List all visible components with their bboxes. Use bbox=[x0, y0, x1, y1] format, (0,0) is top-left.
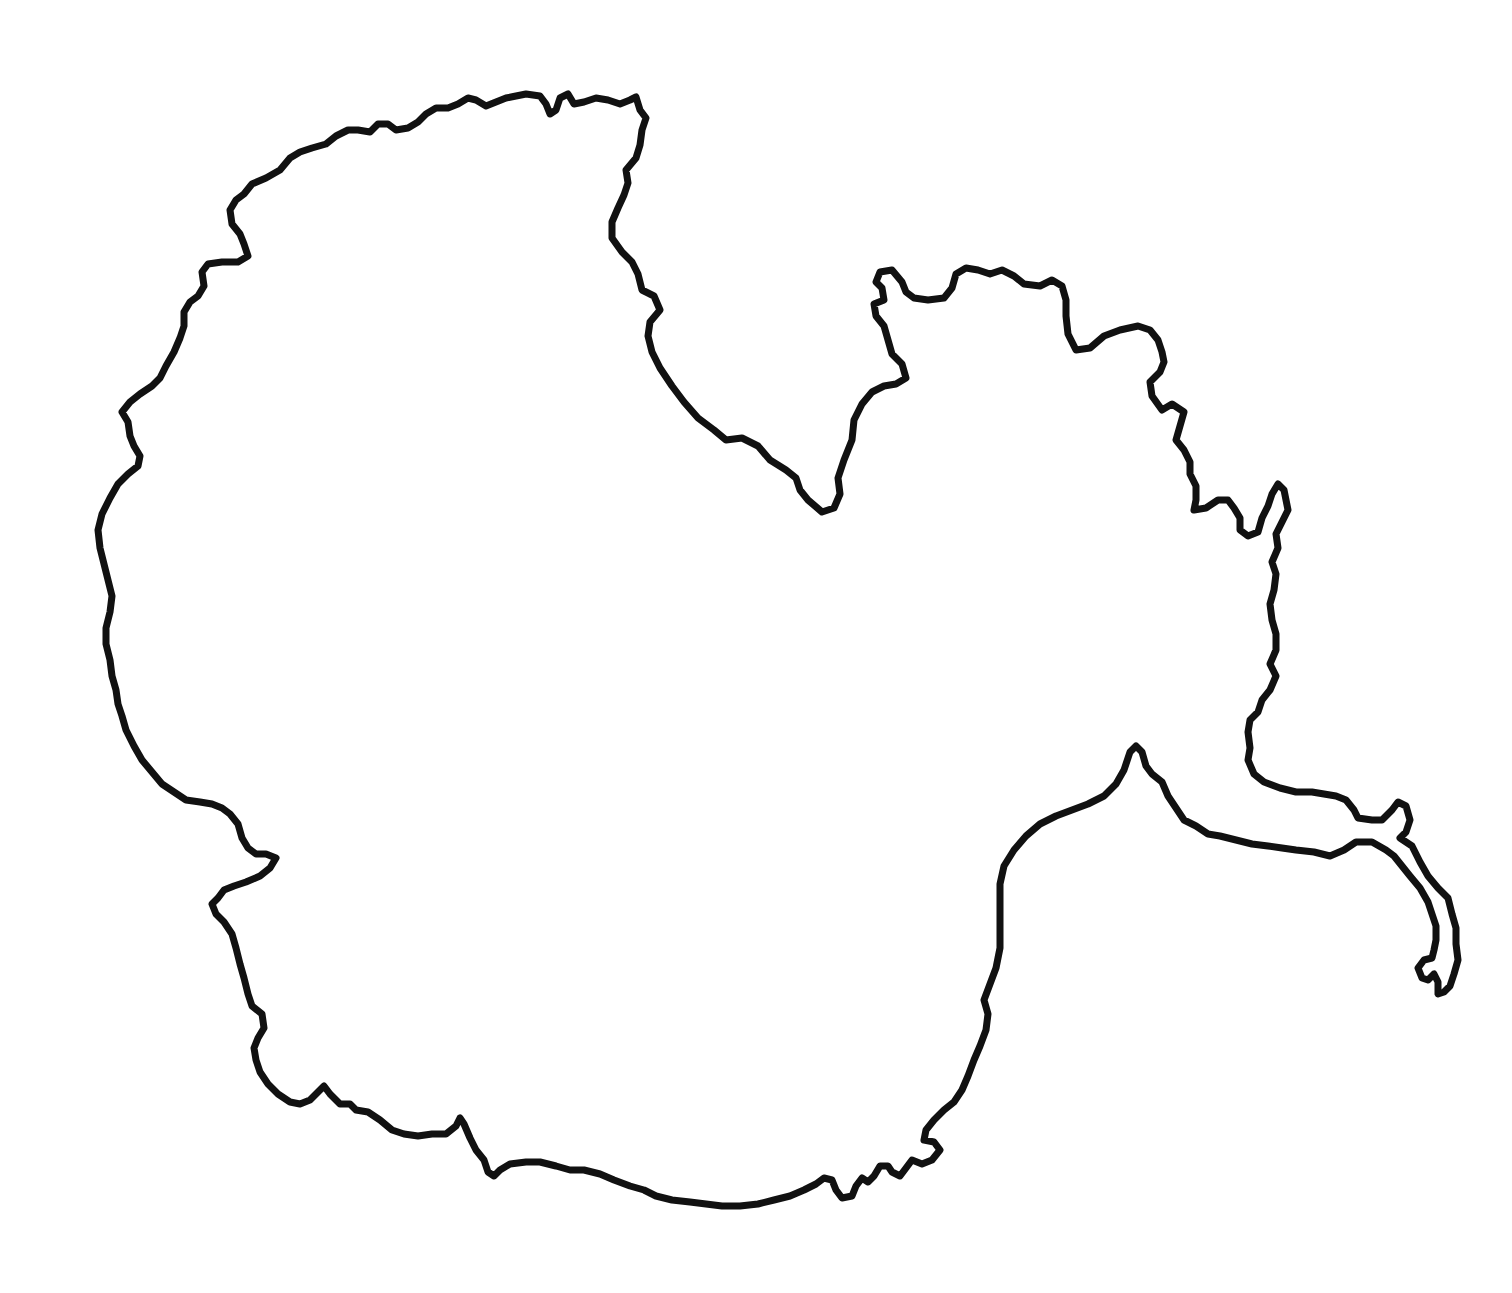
coastline-path bbox=[98, 94, 1458, 1206]
continent-outline-map bbox=[0, 0, 1512, 1293]
